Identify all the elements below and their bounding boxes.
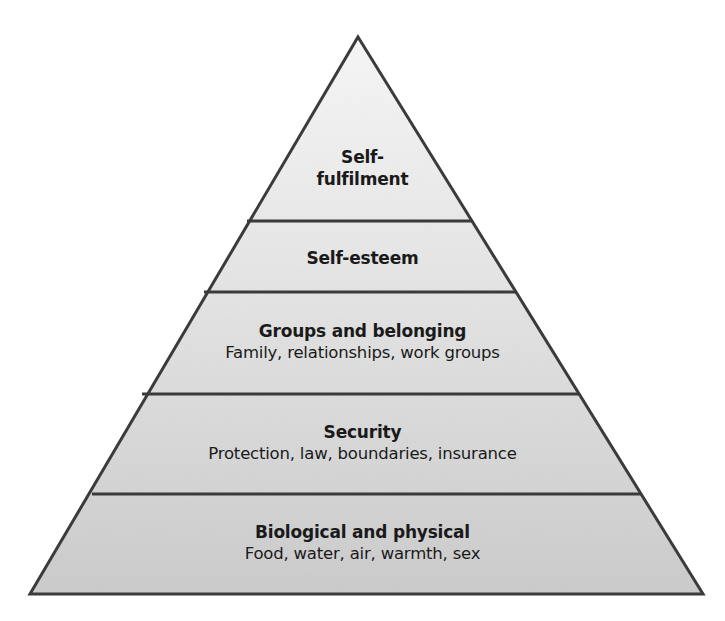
pyramid-diagram xyxy=(0,0,725,621)
